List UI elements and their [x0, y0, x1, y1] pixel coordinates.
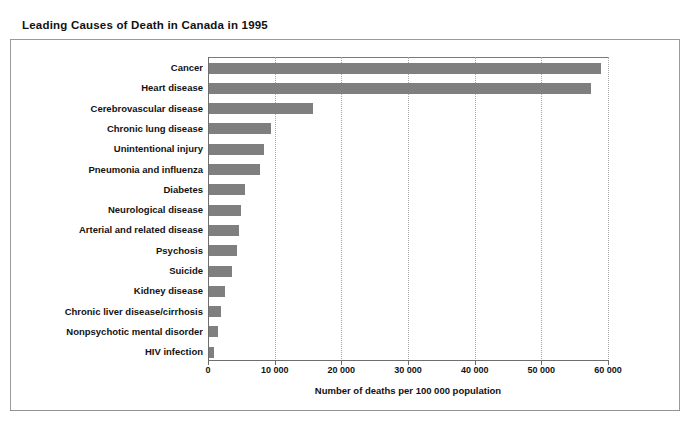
bar-chart: CancerHeart diseaseCerebrovascular disea… [0, 40, 690, 410]
bar-row: Neurological disease [0, 200, 690, 220]
bar [209, 83, 591, 94]
category-label: HIV infection [18, 342, 203, 362]
x-tick-label: 60 000 [594, 365, 622, 375]
bar-row: Cerebrovascular disease [0, 99, 690, 119]
bar-row: Heart disease [0, 78, 690, 98]
bar [209, 326, 218, 337]
bar [209, 347, 214, 358]
bar-row: Suicide [0, 261, 690, 281]
x-axis-title: Number of deaths per 100 000 population [208, 385, 608, 396]
x-tick-label: 20 000 [328, 365, 356, 375]
category-label: Arterial and related disease [18, 220, 203, 240]
category-label: Chronic liver disease/cirrhosis [18, 302, 203, 322]
bar [209, 144, 264, 155]
bar-row: HIV infection [0, 342, 690, 362]
bar [209, 286, 225, 297]
category-label: Pneumonia and influenza [18, 160, 203, 180]
x-axis-tick-labels: 010 00020 00030 00040 00050 00060 000 [0, 365, 690, 379]
bar [209, 184, 245, 195]
bar-row: Psychosis [0, 241, 690, 261]
bottom-divider [10, 410, 680, 411]
x-tick-label: 30 000 [394, 365, 422, 375]
category-label: Chronic lung disease [18, 119, 203, 139]
category-label: Psychosis [18, 241, 203, 261]
bar-row: Arterial and related disease [0, 220, 690, 240]
page-title: Leading Causes of Death in Canada in 199… [10, 19, 268, 31]
bar-row: Cancer [0, 58, 690, 78]
bar [209, 103, 313, 114]
bar [209, 164, 260, 175]
category-label: Suicide [18, 261, 203, 281]
screenshot-root: Leading Causes of Death in Canada in 199… [0, 0, 690, 422]
x-tick-label: 50 000 [528, 365, 556, 375]
bar [209, 123, 271, 134]
x-tick-label: 40 000 [461, 365, 489, 375]
bar [209, 245, 237, 256]
bar [209, 225, 239, 236]
bar-row: Pneumonia and influenza [0, 160, 690, 180]
bar-row: Diabetes [0, 180, 690, 200]
bar-rows: CancerHeart diseaseCerebrovascular disea… [0, 40, 690, 410]
category-label: Diabetes [18, 180, 203, 200]
bar-row: Unintentional injury [0, 139, 690, 159]
bar-row: Nonpsychotic mental disorder [0, 322, 690, 342]
category-label: Cerebrovascular disease [18, 99, 203, 119]
bar-row: Chronic liver disease/cirrhosis [0, 302, 690, 322]
category-label: Cancer [18, 58, 203, 78]
category-label: Nonpsychotic mental disorder [18, 322, 203, 342]
category-label: Heart disease [18, 78, 203, 98]
x-tick-label: 10 000 [261, 365, 289, 375]
bar [209, 266, 232, 277]
category-label: Unintentional injury [18, 139, 203, 159]
category-label: Kidney disease [18, 281, 203, 301]
figure-title-bar: Leading Causes of Death in Canada in 199… [10, 11, 680, 40]
bar-row: Chronic lung disease [0, 119, 690, 139]
bar [209, 306, 221, 317]
bar-row: Kidney disease [0, 281, 690, 301]
bar [209, 63, 601, 74]
bar [209, 205, 241, 216]
category-label: Neurological disease [18, 200, 203, 220]
x-tick-label: 0 [205, 365, 210, 375]
